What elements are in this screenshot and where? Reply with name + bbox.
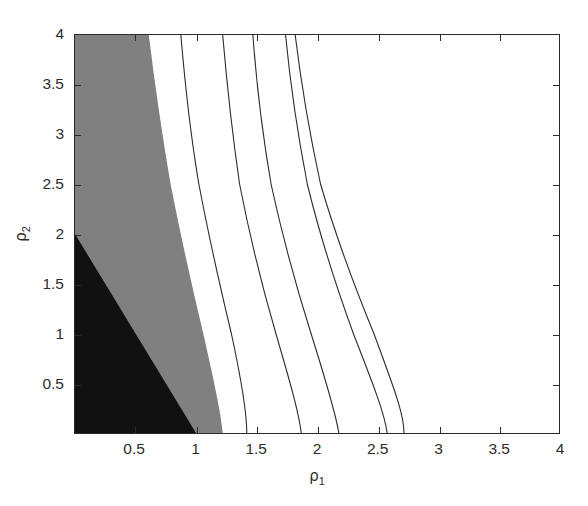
x-tick-label-3.5: 3.5 (488, 441, 510, 457)
y-tick-right-2 (553, 235, 559, 236)
y-tick-label-0.5: 0.5 (30, 376, 64, 392)
y-tick-label-1: 1 (30, 326, 64, 342)
y-tick-label-2: 2 (30, 226, 64, 242)
y-tick-1.5 (75, 285, 81, 286)
y-tick-right-3.5 (553, 85, 559, 86)
y-tick-right-1 (553, 335, 559, 336)
x-tick-top-1 (197, 35, 198, 41)
y-tick-right-3 (553, 135, 559, 136)
x-tick-label-2.5: 2.5 (367, 441, 389, 457)
plot-area (74, 34, 560, 434)
x-tick-1 (197, 427, 198, 433)
contour-canvas (75, 35, 559, 433)
x-tick-2 (318, 427, 319, 433)
contour-figure: 0.5 1 1.5 2 2.5 3 3.5 4 0.5 1 1.5 2 2.5 … (0, 0, 588, 506)
y-tick-1 (75, 335, 81, 336)
y-axis-label-subscript: 2 (20, 226, 32, 232)
x-tick-top-3 (440, 35, 441, 41)
x-tick-0.5 (135, 427, 136, 433)
x-tick-label-4: 4 (556, 441, 565, 457)
x-tick-1.5 (257, 427, 258, 433)
x-tick-top-3.5 (500, 35, 501, 41)
y-tick-label-4: 4 (30, 26, 64, 42)
x-tick-top-2.5 (379, 35, 380, 41)
y-tick-right-0.5 (553, 385, 559, 386)
y-tick-label-3: 3 (30, 126, 64, 142)
x-tick-3 (440, 427, 441, 433)
y-tick-2 (75, 235, 81, 236)
y-tick-3.5 (75, 85, 81, 86)
x-tick-3.5 (500, 427, 501, 433)
y-tick-0.5 (75, 385, 81, 386)
y-axis-label: ρ2 (12, 226, 32, 242)
x-tick-label-1.5: 1.5 (245, 441, 267, 457)
x-tick-label-1: 1 (191, 441, 200, 457)
y-tick-2.5 (75, 185, 81, 186)
y-tick-label-3.5: 3.5 (30, 76, 64, 92)
y-tick-label-2.5: 2.5 (30, 176, 64, 192)
x-tick-top-0.5 (135, 35, 136, 41)
x-axis-label-symbol: ρ (309, 467, 319, 485)
y-tick-right-1.5 (553, 285, 559, 286)
y-axis-label-symbol: ρ (12, 232, 30, 242)
x-tick-top-1.5 (257, 35, 258, 41)
x-axis-label: ρ1 (309, 467, 325, 487)
x-tick-top-2 (318, 35, 319, 41)
x-axis-label-subscript: 1 (319, 475, 325, 487)
x-tick-label-3: 3 (434, 441, 443, 457)
y-tick-label-1.5: 1.5 (30, 276, 64, 292)
y-tick-3 (75, 135, 81, 136)
y-tick-right-2.5 (553, 185, 559, 186)
x-tick-label-2: 2 (313, 441, 322, 457)
x-tick-label-0.5: 0.5 (123, 441, 145, 457)
x-tick-2.5 (379, 427, 380, 433)
